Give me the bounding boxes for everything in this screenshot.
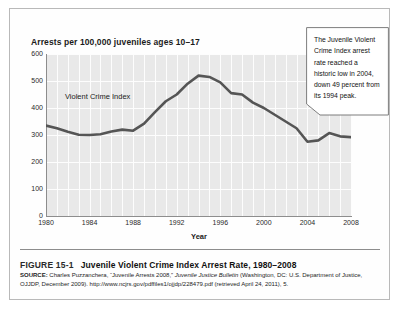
caption-divider xyxy=(20,249,380,250)
y-axis-tick: 100 xyxy=(13,185,43,192)
source-label: SOURCE: xyxy=(20,272,48,278)
y-axis-tick-labels: 6005004003002001000 xyxy=(10,54,43,217)
figure-container: Arrests per 100,000 juveniles ages 10–17… xyxy=(9,8,390,300)
callout-annotation: The Juvenile Violent Crime Index arrest … xyxy=(306,27,389,125)
figure-number: FIGURE 15-1 xyxy=(20,260,74,270)
figure-caption: FIGURE 15-1Juvenile Violent Crime Index … xyxy=(20,254,382,272)
y-axis-tick: 200 xyxy=(13,158,43,165)
y-axis-tick: 300 xyxy=(13,131,43,138)
chart-axis-title: Arrests per 100,000 juveniles ages 10–17 xyxy=(31,37,200,47)
y-axis-tick: 500 xyxy=(13,77,43,84)
x-axis-title: Year xyxy=(46,232,352,241)
chart: Arrests per 100,000 juveniles ages 10–17… xyxy=(10,9,389,245)
figure-title: Juvenile Violent Crime Index Arrest Rate… xyxy=(81,260,297,270)
y-axis-tick: 400 xyxy=(13,104,43,111)
y-axis-tick: 600 xyxy=(13,50,43,57)
x-axis-tick: 1984 xyxy=(82,219,98,226)
x-axis-tick: 2000 xyxy=(256,219,272,226)
y-axis-tick: 0 xyxy=(13,212,43,219)
x-axis-tick-labels: 19801984198819921996200020042008 xyxy=(46,219,352,231)
x-axis-tick: 2008 xyxy=(343,219,359,226)
figure-source: SOURCE: Charles Puzzanchera, “Juvenile A… xyxy=(20,271,382,288)
x-axis-tick: 1992 xyxy=(169,219,185,226)
callout-text: The Juvenile Violent Crime Index arrest … xyxy=(314,34,380,102)
source-text-part-1: Charles Puzzanchera, “Juvenile Arrests 2… xyxy=(48,272,175,278)
x-axis-tick: 1988 xyxy=(125,219,141,226)
x-axis-tick: 2004 xyxy=(300,219,316,226)
source-publication-title: Juvenile Justice Bulletin xyxy=(175,272,239,278)
x-axis-tick: 1996 xyxy=(212,219,228,226)
x-axis-tick: 1980 xyxy=(38,219,54,226)
